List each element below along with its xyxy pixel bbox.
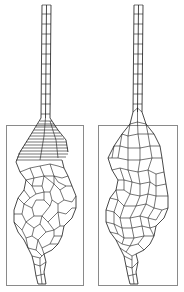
right-mesh-panel [99,5,178,286]
right-bulb-mesh [106,158,168,284]
left-refined-band [16,118,68,162]
left-frame [7,126,84,286]
right-flare-mesh [108,108,162,160]
left-stem [41,5,51,118]
mesh-figure [0,0,184,292]
left-bulb-mesh [14,160,76,284]
right-stem [133,5,143,112]
left-mesh-panel [7,5,84,286]
